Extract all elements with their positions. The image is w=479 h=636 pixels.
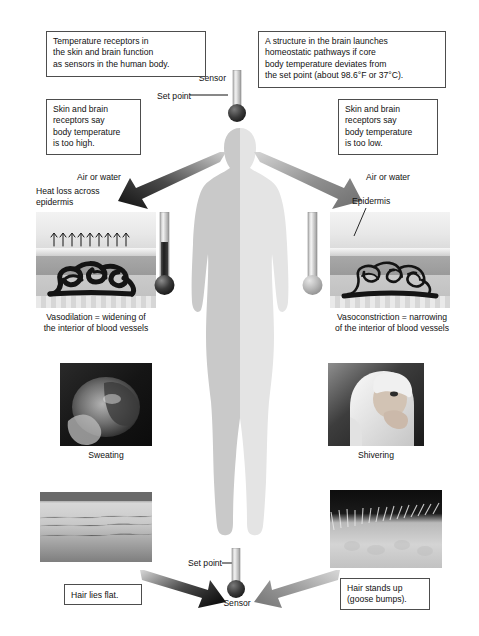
photo-hair-standing bbox=[330, 490, 442, 568]
bottom-sensor-thermometer-icon bbox=[224, 548, 250, 604]
left-thermometer-hot-icon bbox=[152, 212, 180, 298]
photo-caption-shivering: Shivering bbox=[326, 450, 426, 461]
callout-top-left: Temperature receptors in the skin and br… bbox=[46, 31, 206, 77]
callout-top-right: A structure in the brain launches homeos… bbox=[258, 31, 446, 88]
photo-shivering bbox=[328, 363, 424, 446]
right-thermometer-cold-icon bbox=[300, 212, 328, 298]
top-setpoint-label: Set point bbox=[137, 91, 191, 102]
bottom-setpoint-label: Set point bbox=[168, 558, 222, 569]
top-sensor-thermometer-icon bbox=[225, 70, 251, 126]
right-epidermis-label: Epidermis bbox=[352, 196, 432, 207]
photo-caption-sweating: Sweating bbox=[58, 450, 154, 461]
blood-vessel-dilated bbox=[36, 212, 156, 308]
callout-hair-flat: Hair lies flat. bbox=[64, 584, 142, 605]
photo-hair-flat bbox=[40, 492, 152, 562]
vasodilation-caption: Vasodilation = widening of the interior … bbox=[20, 312, 172, 335]
right-medium-label: Air or water bbox=[328, 172, 448, 183]
skin-cross-section-vasodilation bbox=[36, 212, 156, 308]
left-medium-label: Air or water bbox=[44, 172, 154, 183]
bottom-sensor-label: Sensor bbox=[207, 598, 267, 609]
callout-mid-left: Skin and brain receptors say body temper… bbox=[46, 99, 141, 155]
epidermis-leader-line bbox=[348, 206, 378, 240]
left-heat-loss-label: Heat loss across epidermis bbox=[36, 186, 156, 208]
photo-sweating bbox=[60, 363, 152, 446]
callout-mid-right: Skin and brain receptors say body temper… bbox=[338, 99, 438, 155]
callout-goose-bumps: Hair stands up (goose bumps). bbox=[340, 578, 430, 610]
thermoregulation-diagram: Temperature receptors in the skin and br… bbox=[0, 0, 479, 636]
vasoconstriction-caption: Vasoconstriction = narrowing of the inte… bbox=[310, 312, 474, 335]
